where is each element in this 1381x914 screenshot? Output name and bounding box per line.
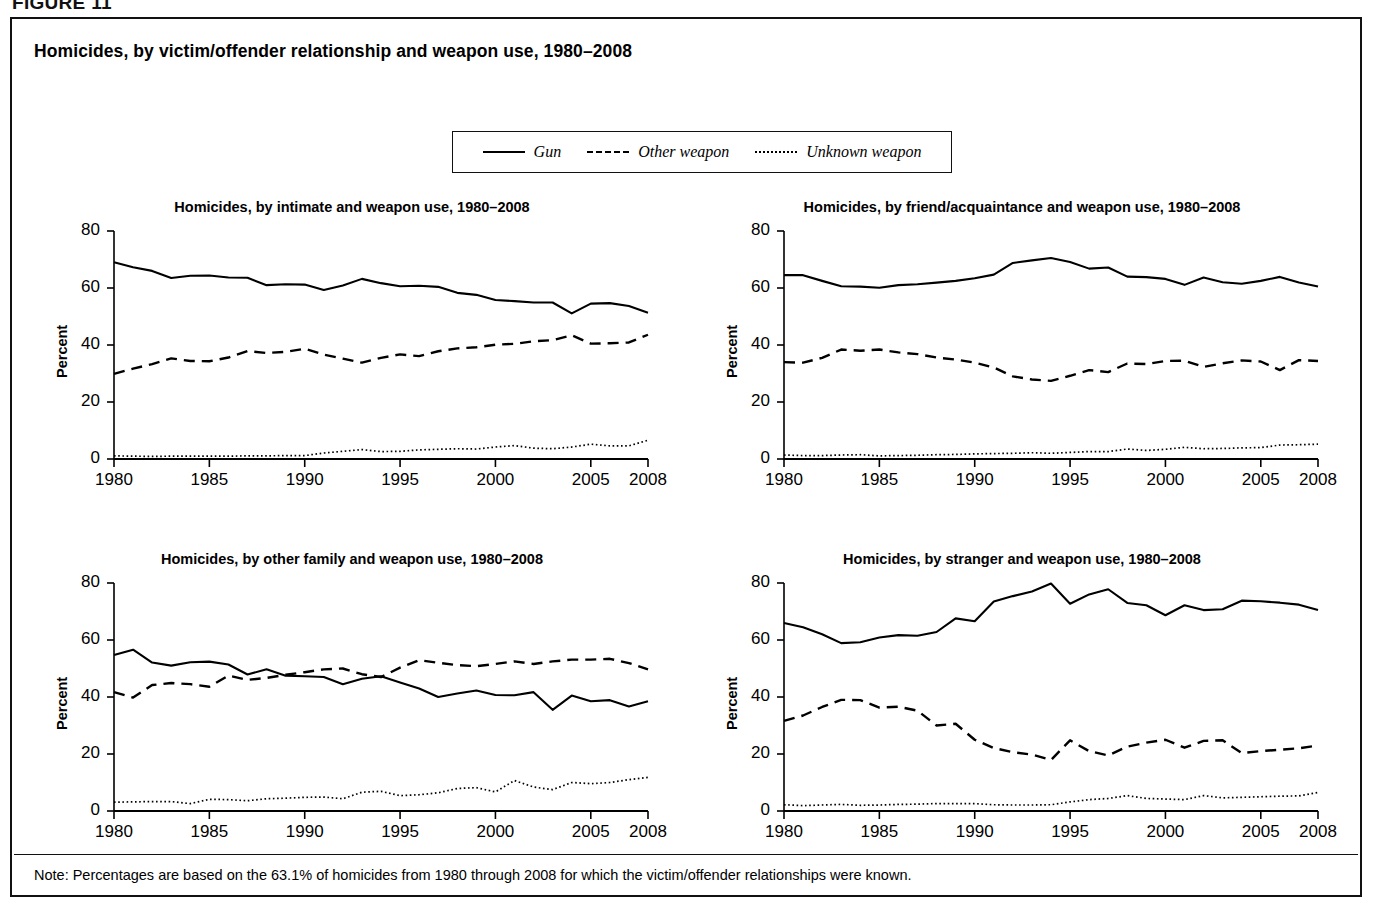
figure-root: FIGURE 11 Homicides, by victim/offender …: [0, 0, 1381, 914]
x-tick-label: 2005: [561, 822, 621, 842]
series-line-solid: [114, 262, 648, 313]
y-tick-label: 60: [66, 629, 100, 649]
chart-title: Homicides, by intimate and weapon use, 1…: [42, 199, 662, 215]
legend-item-label: Other weapon: [638, 143, 729, 161]
y-tick-label: 60: [66, 277, 100, 297]
y-axis-label: Percent: [54, 677, 70, 730]
y-tick-label: 40: [66, 334, 100, 354]
x-tick-label: 2000: [1135, 470, 1195, 490]
y-tick-label: 0: [66, 448, 100, 468]
legend-item-solid: Gun: [483, 143, 562, 161]
x-tick-label: 2008: [1288, 822, 1348, 842]
y-tick-label: 0: [736, 448, 770, 468]
x-tick-label: 2005: [1231, 822, 1291, 842]
series-line-dashed: [784, 700, 1318, 760]
legend-item-dashed: Other weapon: [587, 143, 729, 161]
x-tick-label: 2000: [465, 470, 525, 490]
x-tick-label: 1990: [275, 470, 335, 490]
y-tick-label: 20: [736, 391, 770, 411]
x-tick-label: 1980: [754, 470, 814, 490]
y-tick-label: 40: [66, 686, 100, 706]
y-tick-label: 60: [736, 277, 770, 297]
figure-panel: Homicides, by victim/offender relationsh…: [10, 17, 1362, 897]
series-line-dashed: [784, 350, 1318, 381]
x-tick-label: 2000: [1135, 822, 1195, 842]
x-tick-label: 1995: [370, 470, 430, 490]
x-tick-label: 2008: [618, 470, 678, 490]
series-line-solid: [784, 584, 1318, 644]
x-tick-label: 2008: [618, 822, 678, 842]
series-line-dotted: [784, 792, 1318, 805]
legend-line-sample-solid-icon: [483, 151, 525, 153]
y-tick-label: 20: [66, 743, 100, 763]
chart-intimate: Homicides, by intimate and weapon use, 1…: [42, 199, 662, 499]
chart-svg: [712, 575, 1332, 851]
series-line-solid: [114, 650, 648, 710]
legend-line-sample-dotted-icon: [755, 151, 797, 153]
series-line-dotted: [114, 777, 648, 803]
legend-item-label: Unknown weapon: [806, 143, 921, 161]
y-tick-label: 60: [736, 629, 770, 649]
legend-item-label: Gun: [534, 143, 562, 161]
chart-svg: [712, 223, 1332, 499]
chart-svg: [42, 575, 662, 851]
chart-friend-acquaintance: Homicides, by friend/acquaintance and we…: [712, 199, 1332, 499]
y-tick-label: 40: [736, 334, 770, 354]
x-tick-label: 1990: [275, 822, 335, 842]
chart-other-family: Homicides, by other family and weapon us…: [42, 551, 662, 851]
plot-area: 0204060801980198519901995200020052008Per…: [712, 223, 1332, 499]
figure-number-label: FIGURE 11: [12, 0, 112, 14]
legend-line-sample-dashed-icon: [587, 151, 629, 153]
x-tick-label: 1995: [1040, 822, 1100, 842]
y-tick-label: 80: [736, 220, 770, 240]
x-tick-label: 1980: [754, 822, 814, 842]
y-tick-label: 40: [736, 686, 770, 706]
x-tick-label: 2005: [561, 470, 621, 490]
plot-area: 0204060801980198519901995200020052008Per…: [42, 223, 662, 499]
legend-item-dotted: Unknown weapon: [755, 143, 921, 161]
series-line-dotted: [784, 444, 1318, 456]
y-axis-label: Percent: [54, 325, 70, 378]
y-tick-label: 0: [736, 800, 770, 820]
chart-legend: GunOther weaponUnknown weapon: [452, 131, 952, 173]
x-tick-label: 2005: [1231, 470, 1291, 490]
x-tick-label: 2008: [1288, 470, 1348, 490]
series-line-dotted: [114, 440, 648, 456]
y-tick-label: 80: [66, 220, 100, 240]
y-tick-label: 80: [66, 572, 100, 592]
y-tick-label: 20: [66, 391, 100, 411]
x-tick-label: 1985: [179, 822, 239, 842]
chart-stranger: Homicides, by stranger and weapon use, 1…: [712, 551, 1332, 851]
series-line-dashed: [114, 659, 648, 698]
plot-area: 0204060801980198519901995200020052008Per…: [712, 575, 1332, 851]
x-tick-label: 1985: [849, 470, 909, 490]
x-tick-label: 1985: [179, 470, 239, 490]
x-tick-label: 1980: [84, 822, 144, 842]
chart-title: Homicides, by friend/acquaintance and we…: [712, 199, 1332, 215]
x-tick-label: 1995: [370, 822, 430, 842]
series-line-dashed: [114, 335, 648, 374]
chart-title: Homicides, by other family and weapon us…: [42, 551, 662, 567]
y-axis-label: Percent: [724, 325, 740, 378]
chart-title: Homicides, by stranger and weapon use, 1…: [712, 551, 1332, 567]
x-tick-label: 1980: [84, 470, 144, 490]
x-tick-label: 1990: [945, 470, 1005, 490]
y-tick-label: 80: [736, 572, 770, 592]
y-tick-label: 20: [736, 743, 770, 763]
figure-note: Note: Percentages are based on the 63.1%…: [34, 867, 912, 883]
series-line-solid: [784, 258, 1318, 288]
chart-svg: [42, 223, 662, 499]
x-tick-label: 1985: [849, 822, 909, 842]
page-title: Homicides, by victim/offender relationsh…: [34, 41, 632, 62]
x-tick-label: 2000: [465, 822, 525, 842]
x-tick-label: 1995: [1040, 470, 1100, 490]
plot-area: 0204060801980198519901995200020052008Per…: [42, 575, 662, 851]
y-axis-label: Percent: [724, 677, 740, 730]
y-tick-label: 0: [66, 800, 100, 820]
note-divider: [14, 854, 1358, 856]
x-tick-label: 1990: [945, 822, 1005, 842]
